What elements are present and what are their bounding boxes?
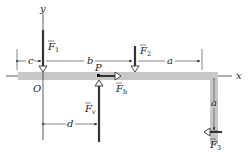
origin-label: O xyxy=(33,83,41,94)
dim-c-label: c xyxy=(28,55,34,66)
dim-d-label: d xyxy=(67,118,73,129)
point-p-marker xyxy=(97,74,100,77)
force-f3-label: F3 xyxy=(209,139,221,152)
point-p-label: P xyxy=(94,62,102,73)
dim-b-label: b xyxy=(87,55,93,66)
force-fh-label: Fh xyxy=(115,83,127,96)
force-f1-arrowhead-icon xyxy=(39,66,47,72)
force-f2-label: F2 xyxy=(139,45,151,58)
dim-a-horizontal-label: a xyxy=(167,55,173,66)
force-f3-arrowhead-icon xyxy=(204,128,210,136)
beam-diagram: x y O F1 F2 c b a P Fh Fv d a F3 xyxy=(0,0,248,155)
y-axis-label: y xyxy=(39,3,46,14)
force-fv-label: Fv xyxy=(84,103,96,116)
force-fv-arrowhead-icon xyxy=(95,80,103,86)
dim-a-vertical-label: a xyxy=(211,97,217,108)
force-f1-label: F1 xyxy=(47,41,59,54)
x-axis-label: x xyxy=(236,70,242,81)
force-f2-arrowhead-icon xyxy=(131,66,139,72)
